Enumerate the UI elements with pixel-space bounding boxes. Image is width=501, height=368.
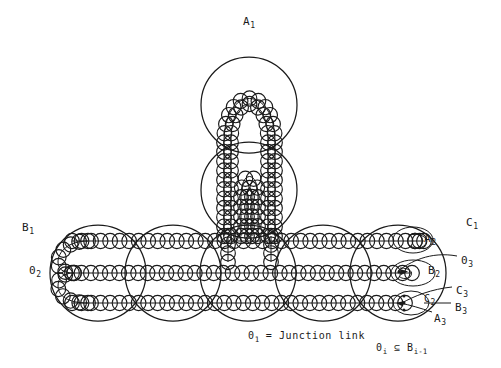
label-o2: 02 [29, 265, 41, 279]
tick-dot-b2 [397, 270, 400, 273]
label-o3: 03 [461, 255, 473, 269]
label-b1: B1 [22, 222, 34, 236]
label-c3: C3 [456, 285, 468, 299]
label-a3: A3 [434, 313, 446, 327]
label-a1: A1 [243, 16, 255, 30]
label-b2: B2 [428, 265, 440, 279]
caption-subset-relation: 0i ⊆ Bi-1 [376, 343, 427, 355]
tick-dot-2 [403, 302, 406, 305]
figure-root: .bigcirc { fill: none; stroke: #1a1a1a; … [0, 0, 501, 368]
label-c2: C2 [424, 294, 435, 307]
label-a2: A2 [424, 233, 436, 247]
tick-dot-3 [403, 309, 406, 312]
label-c1: C1 [466, 217, 478, 231]
junction-link-diagram: .bigcirc { fill: none; stroke: #1a1a1a; … [0, 0, 501, 368]
tick-dot-1 [403, 295, 406, 298]
label-b3: B3 [455, 302, 467, 316]
caption-junction-link: 01 = Junction link [248, 331, 365, 343]
